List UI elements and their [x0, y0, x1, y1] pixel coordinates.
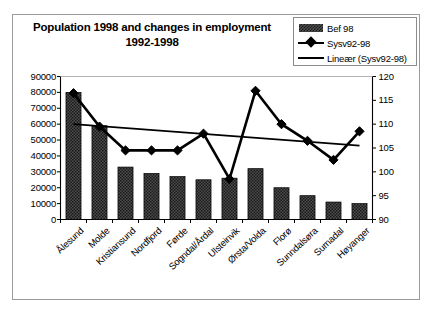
y-axis-left-tick-label: 80000 [14, 86, 56, 97]
y-axis-right-tick-label: 110 [379, 118, 394, 129]
y-axis-left-tick-label: 70000 [14, 102, 56, 113]
bar-3 [144, 173, 159, 219]
data-point-marker-3 [147, 146, 156, 155]
y-axis-left-tick-label: 30000 [14, 166, 56, 177]
y-axis-left-tick-label: 50000 [14, 134, 56, 145]
bar-5 [196, 180, 211, 220]
y-axis-right-tick-label: 100 [379, 166, 394, 177]
bar-2 [118, 167, 133, 219]
y-axis-right-tick-label: 95 [379, 190, 389, 201]
bar-11 [352, 204, 367, 220]
bar-9 [300, 196, 315, 220]
y-axis-right-tick-label: 120 [379, 71, 394, 82]
y-axis-right-tick-label: 115 [379, 94, 394, 105]
y-axis-left-tick-label: 20000 [14, 182, 56, 193]
bar-7 [248, 169, 263, 220]
y-axis-left-tick-label: 90000 [14, 71, 56, 82]
y-axis-left-tick-label: 0 [14, 214, 56, 225]
bar-6 [222, 178, 237, 219]
y-axis-left-tick-label: 10000 [14, 198, 56, 209]
y-axis-left-tick-label: 60000 [14, 118, 56, 129]
y-axis-right-tick-label: 90 [379, 214, 389, 225]
y-axis-right-tick-label: 105 [379, 142, 394, 153]
bar-8 [274, 188, 289, 220]
bar-10 [326, 202, 341, 219]
bar-4 [170, 177, 185, 220]
y-axis-left-tick-label: 40000 [14, 150, 56, 161]
bar-1 [92, 126, 107, 220]
bar-0 [66, 92, 81, 219]
chart-figure: Population 1998 and changes in employmen… [0, 0, 435, 317]
